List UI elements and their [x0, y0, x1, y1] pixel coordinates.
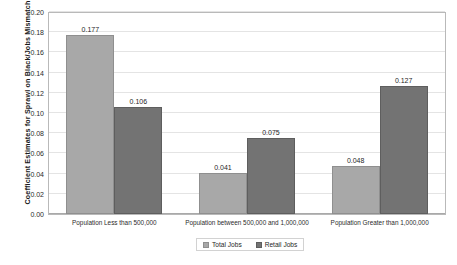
bar-value-label: 0.048 — [333, 157, 379, 164]
bar-group: 0.1770.106 — [48, 12, 181, 214]
bar-value-label: 0.041 — [200, 164, 246, 171]
caption-fragment — [128, 259, 457, 265]
bar-chart-figure: Coefficient Estimates for Sprawl on Blac… — [0, 0, 457, 265]
bar-value-label: 0.106 — [115, 98, 161, 105]
x-axis-tick-label: Population Greater than 1,000,000 — [331, 219, 429, 226]
bar[interactable] — [247, 138, 295, 214]
bar-value-label: 0.075 — [248, 129, 294, 136]
bars-layer: 0.1770.1060.0410.0750.0480.127 — [48, 12, 446, 214]
chart-legend: Total JobsRetail Jobs — [196, 238, 304, 251]
legend-label: Total Jobs — [212, 241, 242, 248]
y-axis-tick-label: 0.16 — [10, 49, 44, 56]
bar[interactable] — [199, 173, 247, 214]
x-axis-tick-label: Population Less than 500,000 — [72, 219, 157, 226]
bar[interactable] — [66, 35, 114, 214]
legend-swatch-icon — [256, 242, 262, 248]
y-axis-tick-label: 0.02 — [10, 190, 44, 197]
legend-label: Retail Jobs — [265, 241, 298, 248]
y-axis-tick-label: 0.18 — [10, 29, 44, 36]
x-axis-tick-label: Population between 500,000 and 1,000,000 — [185, 219, 309, 226]
bar-group: 0.0480.127 — [313, 12, 446, 214]
y-axis-tick-label: 0.12 — [10, 89, 44, 96]
bar[interactable] — [332, 166, 380, 214]
bar[interactable] — [114, 107, 162, 214]
bar-value-label: 0.177 — [67, 26, 113, 33]
y-axis-tick-label: 0.00 — [10, 211, 44, 218]
legend-item[interactable]: Retail Jobs — [256, 241, 298, 248]
legend-swatch-icon — [203, 242, 209, 248]
y-axis-tick-label: 0.04 — [10, 170, 44, 177]
y-axis-tick-label: 0.06 — [10, 150, 44, 157]
y-axis-tick-label: 0.10 — [10, 110, 44, 117]
bar-group: 0.0410.075 — [181, 12, 314, 214]
y-axis-tick-label: 0.20 — [10, 9, 44, 16]
y-axis-tick-label: 0.14 — [10, 69, 44, 76]
y-axis-tick-label: 0.08 — [10, 130, 44, 137]
bar[interactable] — [380, 86, 428, 214]
bar-value-label: 0.127 — [381, 77, 427, 84]
legend-item[interactable]: Total Jobs — [203, 241, 242, 248]
